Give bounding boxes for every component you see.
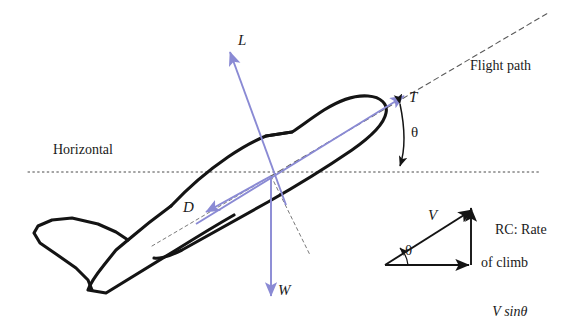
thrust-vector: [196, 96, 404, 224]
velocity-label: V: [428, 207, 437, 225]
theta-angle-arc: [400, 104, 404, 166]
aircraft-silhouette: [34, 96, 386, 293]
rc-line-3: V sinθ: [481, 304, 547, 320]
triangle-theta-label: θ: [405, 242, 412, 260]
lift-label: L: [238, 32, 246, 50]
rc-line-2: of climb: [481, 255, 547, 272]
climb-force-diagram: L T D W θ Flight path Horizontal V θ RC:…: [0, 0, 574, 320]
drag-label: D: [183, 199, 194, 217]
rate-of-climb-label: RC: Rate of climb V sinθ: [481, 205, 547, 320]
theta-angle-label: θ: [411, 124, 418, 142]
rc-line-1: RC: Rate: [495, 222, 547, 237]
weight-label: W: [278, 282, 291, 300]
flight-path-label: Flight path: [470, 58, 531, 75]
lift-vector: [230, 52, 286, 205]
horizontal-label: Horizontal: [53, 142, 113, 159]
thrust-label: T: [409, 89, 417, 107]
